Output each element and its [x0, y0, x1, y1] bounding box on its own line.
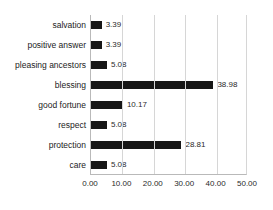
- bar-value-label: 5.08: [111, 57, 127, 73]
- bar: [91, 21, 102, 29]
- bar-row: 28.81: [91, 135, 246, 155]
- bar-value-label: 5.08: [111, 117, 127, 133]
- bar: [91, 121, 107, 129]
- bar-chart: 3.393.395.0838.9810.175.0828.815.08 salv…: [0, 0, 273, 210]
- gridline: [185, 15, 186, 174]
- bar-value-label: 10.17: [127, 97, 147, 113]
- gridline: [217, 15, 218, 174]
- bar: [91, 101, 123, 109]
- bar-row: 5.08: [91, 115, 246, 135]
- bar-value-label: 3.39: [106, 17, 122, 33]
- bar-value-label: 28.81: [185, 137, 205, 153]
- plot-area: 3.393.395.0838.9810.175.0828.815.08: [90, 15, 247, 175]
- category-label: respect: [0, 115, 86, 135]
- bar-row: 3.39: [91, 15, 246, 35]
- bar: [91, 81, 213, 89]
- bar: [91, 61, 107, 69]
- bar-value-label: 3.39: [106, 37, 122, 53]
- category-label: care: [0, 155, 86, 175]
- bar-row: 38.98: [91, 75, 246, 95]
- gridline: [154, 15, 155, 174]
- bar-row: 5.08: [91, 55, 246, 75]
- category-label: salvation: [0, 15, 86, 35]
- bar: [91, 41, 102, 49]
- category-label: positive answer: [0, 35, 86, 55]
- gridline: [122, 15, 123, 174]
- x-tick-label: 50.00: [227, 178, 267, 190]
- category-label: blessing: [0, 75, 86, 95]
- bar-value-label: 38.98: [217, 77, 237, 93]
- bar-rows: 3.393.395.0838.9810.175.0828.815.08: [91, 15, 246, 174]
- bar-row: 3.39: [91, 35, 246, 55]
- category-label: pleasing ancestors: [0, 55, 86, 75]
- bar: [91, 161, 107, 169]
- category-label: good fortune: [0, 95, 86, 115]
- bar: [91, 141, 181, 149]
- category-label: protection: [0, 135, 86, 155]
- bar-value-label: 5.08: [111, 157, 127, 173]
- bar-row: 5.08: [91, 155, 246, 175]
- bar-row: 10.17: [91, 95, 246, 115]
